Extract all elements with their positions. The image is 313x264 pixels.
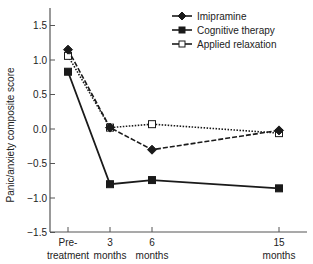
x-tick-label: 3	[107, 237, 113, 248]
legend-item: Cognitive therapy	[172, 25, 275, 36]
y-tick-label: 0.5	[33, 89, 47, 100]
x-tick-label: treatment	[47, 250, 89, 261]
series-applied-relaxation	[65, 52, 283, 136]
diamond-marker-icon	[148, 145, 157, 154]
filled-square-marker-icon	[107, 181, 114, 188]
legend-item: Applied relaxation	[172, 39, 277, 50]
x-tick-label: months	[136, 250, 169, 261]
y-axis-ticks: −1.5−1.0−0.50.00.51.01.5	[27, 20, 55, 238]
x-tick-label: 15	[273, 237, 285, 248]
x-tick-label: 6	[149, 237, 155, 248]
legend-label: Applied relaxation	[197, 39, 277, 50]
open-square-marker-icon	[179, 41, 185, 47]
open-square-marker-icon	[149, 121, 156, 128]
legend-item: Imipramine	[172, 11, 247, 22]
x-tick-label: months	[94, 250, 127, 261]
filled-square-marker-icon	[276, 185, 283, 192]
y-tick-label: −1.0	[27, 193, 47, 204]
filled-square-marker-icon	[179, 27, 185, 33]
series-imipramine	[64, 45, 284, 154]
series-line	[68, 72, 279, 189]
legend-label: Imipramine	[197, 11, 247, 22]
y-tick-label: 1.0	[33, 55, 47, 66]
filled-square-marker-icon	[149, 177, 156, 184]
legend-label: Cognitive therapy	[197, 25, 275, 36]
y-axis-title: Panic/anxiety composite score	[5, 67, 16, 203]
y-tick-label: 1.5	[33, 20, 47, 31]
line-chart: −1.5−1.0−0.50.00.51.01.5 Pre-treatment3m…	[0, 0, 313, 264]
y-tick-label: −1.5	[27, 227, 47, 238]
series-cognitive-therapy	[65, 68, 283, 192]
series-line	[68, 50, 279, 150]
data-series	[64, 45, 284, 192]
diamond-marker-icon	[178, 12, 186, 20]
filled-square-marker-icon	[65, 68, 72, 75]
y-tick-label: −0.5	[27, 158, 47, 169]
x-tick-label: Pre-	[59, 237, 78, 248]
series-line	[68, 56, 279, 133]
x-tick-label: months	[263, 250, 296, 261]
legend: ImipramineCognitive therapyApplied relax…	[172, 11, 277, 50]
y-tick-label: 0.0	[33, 124, 47, 135]
